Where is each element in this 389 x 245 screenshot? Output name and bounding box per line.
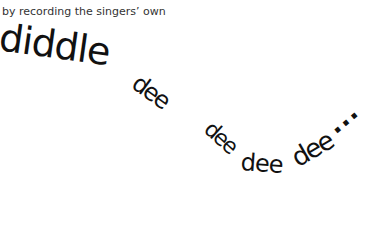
caption-text: by recording the singers’ own bbox=[2, 5, 166, 18]
handwritten-word-dee-2: dee bbox=[200, 118, 241, 158]
handwritten-word-dee-1: dee bbox=[128, 71, 173, 113]
handwritten-word-dee-3: dee bbox=[240, 150, 283, 177]
handwritten-word-dee-4: dee bbox=[287, 127, 337, 171]
handwritten-word-diddle: diddle bbox=[0, 18, 112, 71]
